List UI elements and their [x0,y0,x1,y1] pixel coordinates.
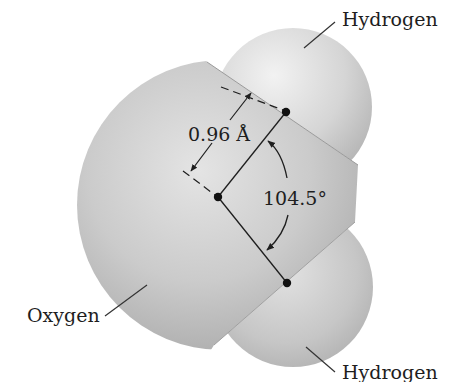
hydrogen-bottom-label: Hydrogen [342,361,438,382]
oxygen-label: Oxygen [27,304,100,326]
hydrogen-bottom-nucleus-dot [283,279,291,287]
oxygen-nucleus-dot [214,193,222,201]
hydrogen-top-nucleus-dot [282,108,290,116]
water-molecule-diagram: 0.96 Å 104.5° Hydrogen Oxygen Hydrogen [0,0,454,382]
bond-length-label: 0.96 Å [188,123,250,145]
bond-angle-label: 104.5° [263,187,327,209]
hydrogen-top-label: Hydrogen [342,8,438,30]
